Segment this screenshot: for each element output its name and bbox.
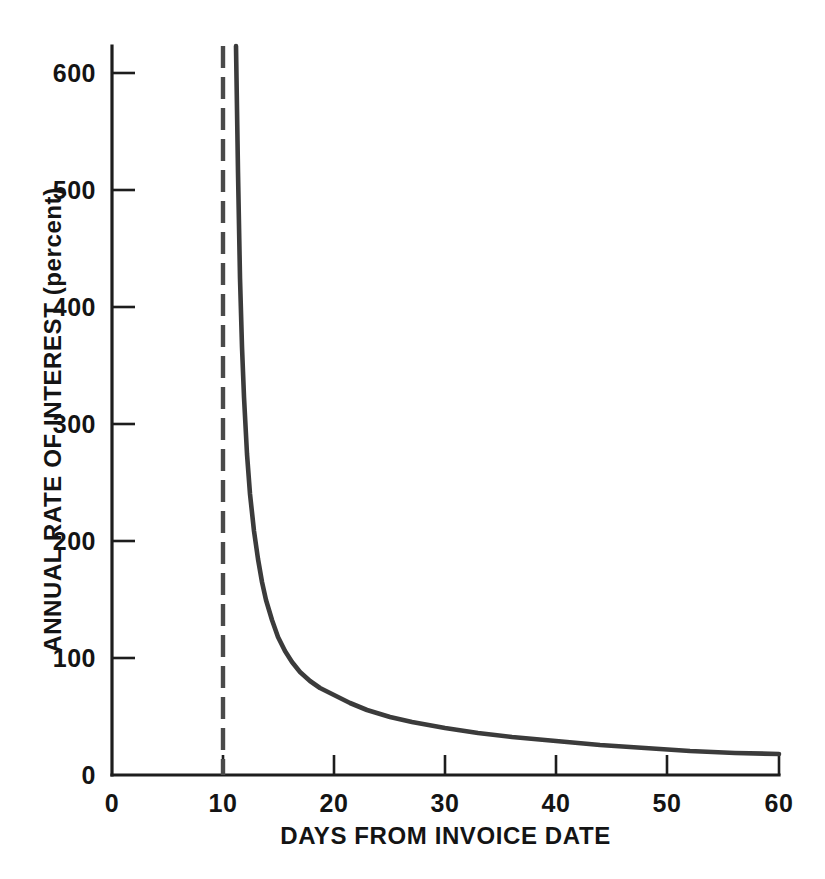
y-tick-label-600: 600: [0, 59, 96, 88]
interest-rate-curve: [236, 46, 779, 754]
y-tick-label-0: 0: [0, 761, 96, 790]
y-axis-title: ANNUAL RATE OF INTEREST (percent): [39, 185, 67, 655]
chart-figure: 0 100 200 300 400 500 600 0 10 20 30 40 …: [0, 0, 825, 879]
x-tick-label-50: 50: [653, 789, 682, 818]
x-axis-ticks: [223, 755, 779, 775]
x-tick-label-30: 30: [431, 789, 460, 818]
y-axis-ticks: [112, 73, 135, 658]
x-axis-title: DAYS FROM INVOICE DATE: [112, 822, 779, 850]
x-tick-label-10: 10: [209, 789, 238, 818]
x-tick-label-20: 20: [320, 789, 349, 818]
chart-plot-area: [0, 0, 825, 879]
x-tick-label-40: 40: [542, 789, 571, 818]
x-tick-label-60: 60: [765, 789, 794, 818]
x-tick-label-0: 0: [105, 789, 119, 818]
